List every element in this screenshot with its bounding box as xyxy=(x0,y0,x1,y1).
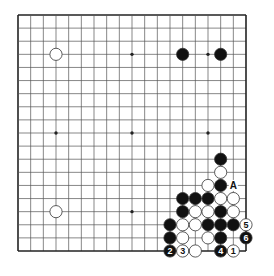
black-stone-icon xyxy=(215,48,227,60)
black-stone-icon xyxy=(215,219,227,231)
white-stone xyxy=(189,219,201,231)
white-stone-icon xyxy=(202,179,214,191)
stones: 562341 xyxy=(50,48,252,257)
white-stone-icon xyxy=(50,206,62,218)
white-stone xyxy=(189,206,201,218)
star-point xyxy=(206,53,209,56)
black-stone: 4 xyxy=(215,245,227,257)
black-stone: 6 xyxy=(240,232,252,244)
white-stone-icon xyxy=(227,206,239,218)
go-board-diagram: 562341 A xyxy=(0,0,274,276)
black-stone-icon xyxy=(202,219,214,231)
black-stone-icon xyxy=(177,206,189,218)
white-stone xyxy=(50,206,62,218)
black-stone xyxy=(189,192,201,204)
black-stone xyxy=(215,153,227,165)
star-point xyxy=(130,210,133,213)
black-stone xyxy=(177,206,189,218)
go-board: 562341 A xyxy=(0,0,274,276)
move-number: 5 xyxy=(243,220,248,230)
white-stone-icon xyxy=(189,206,201,218)
white-stone-icon xyxy=(215,166,227,178)
white-stone xyxy=(177,219,189,231)
white-stone-icon xyxy=(215,192,227,204)
black-stone xyxy=(227,219,239,231)
white-stone-icon xyxy=(50,48,62,60)
white-stone-icon xyxy=(177,219,189,231)
white-stone xyxy=(227,206,239,218)
black-stone-icon xyxy=(227,219,239,231)
move-number: 3 xyxy=(180,246,185,256)
black-stone xyxy=(177,48,189,60)
white-stone-icon xyxy=(189,219,201,231)
black-stone-icon xyxy=(215,206,227,218)
white-stone xyxy=(215,192,227,204)
black-stone xyxy=(215,206,227,218)
black-stone-icon xyxy=(189,192,201,204)
white-stone xyxy=(202,179,214,191)
black-stone-icon xyxy=(177,192,189,204)
white-stone xyxy=(202,232,214,244)
black-stone-icon xyxy=(164,219,176,231)
white-stone-icon xyxy=(202,206,214,218)
black-stone xyxy=(215,232,227,244)
white-stone xyxy=(50,48,62,60)
white-stone-icon xyxy=(177,232,189,244)
white-stone xyxy=(177,232,189,244)
white-stone-icon xyxy=(189,245,201,257)
black-stone-icon xyxy=(215,232,227,244)
black-stone-icon xyxy=(177,48,189,60)
black-stone-icon xyxy=(215,179,227,191)
white-stone-icon xyxy=(227,192,239,204)
point-label-a: A xyxy=(230,180,237,191)
move-number: 4 xyxy=(218,246,223,256)
black-stone-icon xyxy=(215,153,227,165)
move-number: 6 xyxy=(243,233,248,243)
board-marks: A xyxy=(229,180,238,191)
star-point xyxy=(54,131,57,134)
black-stone xyxy=(177,192,189,204)
black-stone xyxy=(202,192,214,204)
white-stone xyxy=(189,245,201,257)
black-stone xyxy=(164,232,176,244)
black-stone xyxy=(164,219,176,231)
black-stone-icon xyxy=(164,232,176,244)
star-point xyxy=(206,131,209,134)
move-number: 1 xyxy=(231,246,236,256)
black-stone xyxy=(215,179,227,191)
black-stone: 2 xyxy=(164,245,176,257)
black-stone xyxy=(215,219,227,231)
white-stone xyxy=(202,206,214,218)
star-point xyxy=(130,131,133,134)
white-stone-icon xyxy=(202,232,214,244)
white-stone: 1 xyxy=(227,245,239,257)
white-stone xyxy=(215,166,227,178)
black-stone xyxy=(202,219,214,231)
move-number: 2 xyxy=(167,246,172,256)
white-stone: 5 xyxy=(240,219,252,231)
black-stone-icon xyxy=(202,192,214,204)
star-point xyxy=(130,53,133,56)
white-stone: 3 xyxy=(177,245,189,257)
black-stone xyxy=(215,48,227,60)
white-stone xyxy=(227,192,239,204)
